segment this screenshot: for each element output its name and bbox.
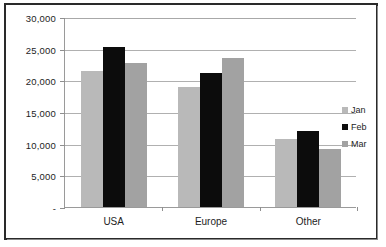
bar[interactable] xyxy=(200,73,222,207)
bar-group xyxy=(65,18,162,207)
y-axis-label: 30,000 xyxy=(26,13,56,24)
plot-area: -5,00010,00015,00020,00025,00030,000 USA… xyxy=(64,18,356,208)
legend-swatch-icon xyxy=(342,141,348,147)
y-axis-tick xyxy=(60,208,65,209)
legend-label: Feb xyxy=(351,122,367,132)
bar[interactable] xyxy=(125,63,147,207)
chart-frame: -5,00010,00015,00020,00025,00030,000 USA… xyxy=(4,3,378,240)
bar[interactable] xyxy=(103,47,125,207)
chart-legend: JanFebMar xyxy=(342,101,382,152)
bar[interactable] xyxy=(178,87,200,207)
bar-group xyxy=(162,18,259,207)
legend-item-mar[interactable]: Mar xyxy=(342,135,382,152)
x-axis-label-usa: USA xyxy=(103,216,124,227)
x-axis-label-other: Other xyxy=(296,216,321,227)
y-axis-label: - xyxy=(53,203,56,214)
bar[interactable] xyxy=(275,139,297,207)
x-axis-label-europe: Europe xyxy=(195,216,227,227)
bar[interactable] xyxy=(222,58,244,207)
legend-swatch-icon xyxy=(342,124,348,130)
y-axis-label: 5,000 xyxy=(31,171,56,182)
legend-item-jan[interactable]: Jan xyxy=(342,101,382,118)
y-axis-label: 20,000 xyxy=(26,76,56,87)
bar[interactable] xyxy=(319,149,341,207)
legend-item-feb[interactable]: Feb xyxy=(342,118,382,135)
x-axis-tick xyxy=(162,207,163,211)
legend-label: Mar xyxy=(351,139,367,149)
y-axis-label: 25,000 xyxy=(26,44,56,55)
y-axis-label: 10,000 xyxy=(26,139,56,150)
bar[interactable] xyxy=(81,71,103,207)
x-axis-tick xyxy=(357,207,358,211)
legend-swatch-icon xyxy=(342,107,348,113)
x-axis-tick xyxy=(260,207,261,211)
bar[interactable] xyxy=(297,131,319,207)
legend-label: Jan xyxy=(351,105,366,115)
y-axis-label: 15,000 xyxy=(26,108,56,119)
